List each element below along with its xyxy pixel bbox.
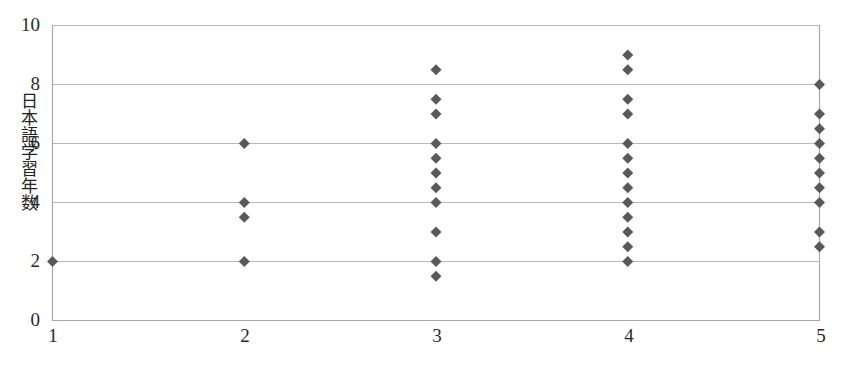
x-tick-label-1: 1 [36, 325, 70, 347]
y-tick-label-4: 4 [6, 191, 40, 213]
y-tick-label-0: 0 [6, 309, 40, 331]
chart-plot-area [0, 0, 848, 374]
y-tick-label-8: 8 [6, 73, 40, 95]
scatter-chart: 日本語学習年数 10 8 6 4 2 0 1 2 3 4 5 [0, 0, 848, 374]
y-tick-label-2: 2 [6, 250, 40, 272]
x-tick-label-2: 2 [228, 325, 262, 347]
x-tick-label-5: 5 [804, 325, 838, 347]
y-tick-label-10: 10 [6, 14, 40, 36]
y-tick-label-6: 6 [6, 132, 40, 154]
x-tick-label-4: 4 [612, 325, 646, 347]
x-tick-label-3: 3 [420, 325, 454, 347]
